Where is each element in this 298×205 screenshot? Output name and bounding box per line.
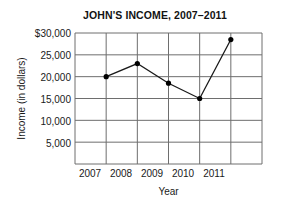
x-axis-title: Year bbox=[75, 186, 262, 197]
data-point-2009 bbox=[166, 81, 171, 86]
data-point-2008 bbox=[135, 61, 140, 66]
data-point-2011 bbox=[228, 37, 233, 42]
x-tick-label-2011: 2011 bbox=[194, 169, 234, 179]
data-point-2010 bbox=[197, 96, 202, 101]
plot-svg bbox=[75, 33, 262, 164]
data-point-2007 bbox=[104, 74, 109, 79]
income-line-chart: JOHN'S INCOME, 2007–2011 Income (in doll… bbox=[0, 0, 298, 205]
plot-area bbox=[75, 33, 262, 164]
